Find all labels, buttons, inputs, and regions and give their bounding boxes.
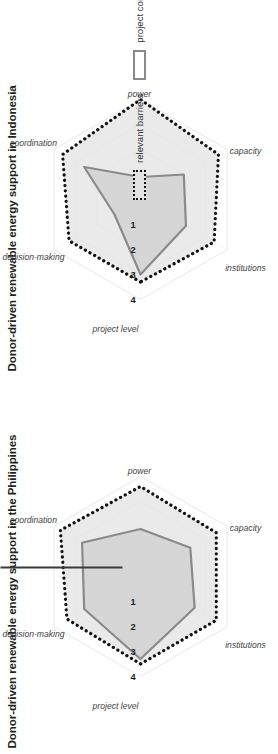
radial-axis-title: project level: [92, 323, 138, 333]
legend-swatch-contributions-icon: [133, 50, 146, 80]
legend-label-barriers: relevant barriers: [134, 94, 145, 163]
legend-swatch-barriers-icon: [133, 170, 146, 200]
radial-tick-label: 1: [130, 596, 135, 607]
radial-tick-label: 2: [130, 621, 135, 632]
axis-label-coordination: coordination: [10, 515, 57, 525]
radar-chart-philippines: 1234project leveldecision-makingcoordina…: [22, 454, 262, 694]
radial-tick-label: 3: [130, 646, 135, 657]
radial-tick-label: 4: [130, 671, 135, 682]
legend-item-contributions: project contributions: [133, 0, 146, 80]
axis-label-capacity: capacity: [229, 522, 261, 532]
chart-legend: relevant barriers project contributions: [0, 0, 278, 60]
radial-tick-label: 2: [130, 244, 135, 255]
chart-panel-indonesia: Donor-driven renewable energy support in…: [0, 0, 278, 377]
legend-item-barriers: relevant barriers: [133, 94, 146, 200]
radial-tick-label: 1: [130, 219, 135, 230]
axis-label-power: power: [127, 465, 150, 475]
legend-label-contributions: project contributions: [134, 0, 145, 43]
axis-label-institutions: institutions: [224, 640, 265, 650]
panel-divider: [0, 566, 122, 568]
axis-label-institutions: institutions: [224, 263, 265, 273]
axis-label-capacity: capacity: [229, 145, 261, 155]
page-title: Donor-driven renewable energy support in…: [4, 85, 17, 371]
axis-label-coordination: coordination: [10, 138, 57, 148]
radial-axis-title: project level: [92, 700, 138, 710]
radial-tick-label: 3: [130, 269, 135, 280]
page-title-2: Donor-driven renewable energy support in…: [4, 434, 17, 748]
radar-svg: [22, 454, 262, 694]
figure-canvas: Donor-driven renewable energy support in…: [0, 0, 278, 754]
axis-label-decision-making: decision-making: [2, 252, 64, 262]
axis-label-decision-making: decision-making: [2, 629, 64, 639]
radial-tick-label: 4: [130, 294, 135, 305]
chart-panel-philippines: Donor-driven renewable energy support in…: [0, 377, 278, 754]
